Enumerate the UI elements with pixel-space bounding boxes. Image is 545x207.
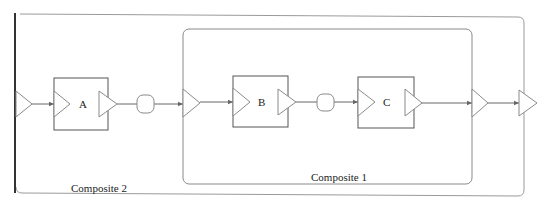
composite-2-label: Composite 2 [71,182,127,194]
diagram-svg: Composite 2 Composite 1 [0,0,545,207]
composite-1-output-port[interactable] [472,89,488,117]
composite-2-output-port[interactable] [519,90,537,116]
block-c-label: C [383,96,390,108]
block-b-label: B [258,96,265,108]
block-c[interactable]: C [358,77,422,128]
composite-1-label: Composite 1 [311,171,367,183]
composite-1-input-port[interactable] [183,89,200,117]
diagram-canvas: Composite 2 Composite 1 [0,0,545,207]
block-a[interactable]: A [54,78,117,130]
block-a-label: A [79,98,87,110]
composite-2-input-port[interactable] [16,91,32,117]
relation-2[interactable] [317,94,334,111]
relation-1[interactable] [137,95,154,113]
block-b[interactable]: B [233,76,296,127]
